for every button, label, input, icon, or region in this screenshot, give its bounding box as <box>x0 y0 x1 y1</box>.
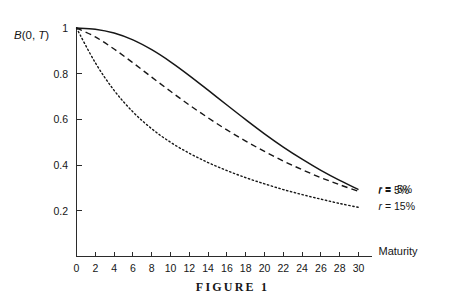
x-tick-label: 20 <box>259 263 271 274</box>
x-tick-label: 14 <box>202 263 214 274</box>
x-tick-label: 6 <box>130 263 136 274</box>
series-curve-1 <box>77 28 359 190</box>
x-axis-tick-marks <box>77 252 359 257</box>
x-tick-label: 4 <box>111 263 117 274</box>
series-label-2: r = 5% <box>379 185 410 196</box>
series-label-3: r = 15% <box>379 201 415 212</box>
x-tick-label: 16 <box>221 263 233 274</box>
x-tick-label: 2 <box>92 263 98 274</box>
x-tick-label: 12 <box>183 263 195 274</box>
series-curve-3 <box>77 28 359 207</box>
x-tick-label: 18 <box>240 263 252 274</box>
x-tick-label: 26 <box>315 263 327 274</box>
x-axis-title: Maturity <box>379 246 418 257</box>
x-tick-label: 0 <box>74 263 80 274</box>
data-series-group <box>77 28 359 207</box>
x-tick-label: 30 <box>353 263 365 274</box>
series-label-value: = 15% <box>382 200 415 212</box>
y-tick-label: 0.6 <box>30 114 68 125</box>
y-tick-label: 0.2 <box>30 206 68 217</box>
figure-container: B(0, T) 024681012141618202224262830 0.20… <box>0 0 465 304</box>
y-tick-label: 0.4 <box>30 160 68 171</box>
x-tick-label: 28 <box>334 263 346 274</box>
y-axis-title-b: B <box>14 29 22 41</box>
series-label-value: = 5% <box>382 184 409 196</box>
x-tick-label: 10 <box>165 263 177 274</box>
y-tick-label: 0.8 <box>30 68 68 79</box>
chart-plot-area <box>0 0 465 304</box>
x-tick-label: 24 <box>296 263 308 274</box>
x-tick-label: 22 <box>277 263 289 274</box>
y-tick-label: 1 <box>30 23 68 34</box>
y-axis-tick-marks <box>77 28 82 211</box>
figure-caption: FIGURE 1 <box>0 280 465 295</box>
x-tick-label: 8 <box>149 263 155 274</box>
